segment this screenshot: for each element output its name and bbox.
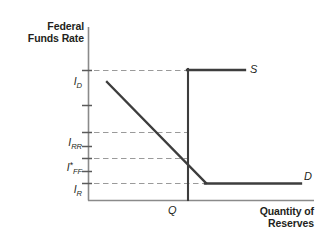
chart-axes xyxy=(88,27,314,201)
y-tick-subscript-i-r: R xyxy=(77,189,82,198)
demand-curve-label: D xyxy=(304,170,312,183)
x-tick-label-q: Q xyxy=(168,204,177,217)
x-axis-title: Quantity of Reserves xyxy=(218,205,314,230)
supply-curve xyxy=(187,69,245,200)
y-tick-label-i-d: ID xyxy=(42,63,82,101)
y-axis-ticks xyxy=(82,71,92,184)
y-axis-title: Federal Funds Rate xyxy=(10,20,84,45)
demand-curve xyxy=(107,82,301,184)
federal-funds-rate-diagram: Federal Funds Rate Quantity of Reserves … xyxy=(0,0,327,247)
supply-curve-label: S xyxy=(250,63,257,76)
y-tick-label-i-r: IR xyxy=(42,171,82,209)
y-tick-subscript-i-d: D xyxy=(77,81,82,90)
